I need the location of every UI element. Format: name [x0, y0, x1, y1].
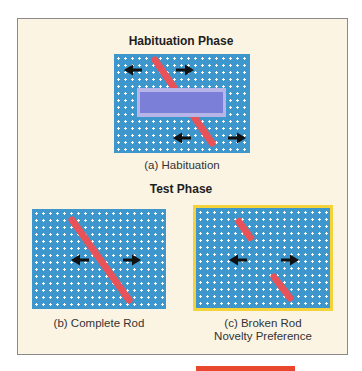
rod-bottom-piece: [274, 277, 290, 298]
arrow-right-icon: [281, 255, 299, 266]
caption-c-line1: (c) Broken Rod: [193, 317, 333, 330]
caption-c-line2: Novelty Preference: [193, 330, 333, 343]
rod-top-piece: [237, 219, 252, 240]
arrow-left-icon: [229, 255, 247, 266]
bottom-red-bar: [196, 366, 295, 371]
caption-c: (c) Broken Rod Novelty Preference: [193, 317, 333, 343]
